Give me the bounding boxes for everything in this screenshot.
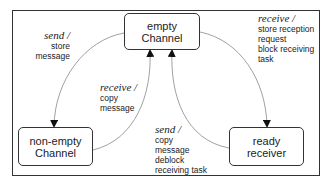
event-name: send / xyxy=(28,30,70,41)
event-name: send / xyxy=(155,124,207,135)
transition-label-send-store: send / store message xyxy=(28,30,70,61)
state-label: Channel xyxy=(35,147,76,159)
event-name: receive / xyxy=(100,82,137,93)
state-non-empty-channel[interactable]: non-empty Channel xyxy=(18,127,93,166)
transition-label-receive-store-reception: receive / store reception request block … xyxy=(258,13,314,64)
state-label: Channel xyxy=(142,32,183,44)
state-empty-channel[interactable]: empty Channel xyxy=(124,13,200,50)
state-label: receiver xyxy=(247,147,286,159)
transition-label-send-copy-deblock: send / copy message deblock receiving ta… xyxy=(155,124,207,175)
state-label: ready xyxy=(253,135,281,147)
state-label: empty xyxy=(147,20,177,32)
event-name: receive / xyxy=(258,13,314,24)
state-ready-receiver[interactable]: ready receiver xyxy=(229,127,304,166)
edge-empty-to-ready xyxy=(200,32,267,126)
transition-label-receive-copy: receive / copy message xyxy=(100,82,137,113)
state-label: non-empty xyxy=(30,135,82,147)
